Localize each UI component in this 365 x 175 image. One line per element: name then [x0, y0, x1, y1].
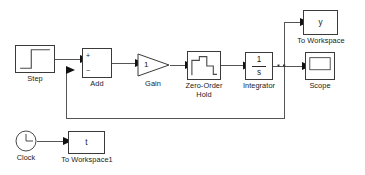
- block-to-workspace1[interactable]: t: [68, 131, 105, 154]
- block-clock[interactable]: [15, 130, 37, 152]
- block-scope[interactable]: [305, 52, 335, 80]
- block-step-label: Step: [5, 75, 65, 84]
- add-plus-sign: +: [86, 52, 90, 59]
- add-minus-sign: −: [86, 67, 90, 74]
- step-signal-icon: [16, 46, 54, 72]
- block-add[interactable]: + −: [82, 48, 112, 78]
- simulink-diagram-canvas: Step + − Add 1 Gain Zero-Order Hold 1 s …: [0, 0, 365, 175]
- block-zero-order-hold-label: Zero-Order Hold: [174, 82, 234, 99]
- block-gain[interactable]: 1: [137, 53, 170, 77]
- block-to-workspace1-label: To Workspace1: [56, 156, 118, 165]
- block-clock-label: Clock: [0, 154, 56, 163]
- block-integrator-label: Integrator: [229, 82, 289, 91]
- triangle-gain-icon: [137, 53, 170, 77]
- gain-value: 1: [144, 60, 148, 69]
- integrator-fraction-bar: [252, 66, 266, 67]
- block-integrator[interactable]: 1 s: [245, 52, 273, 80]
- clock-icon: [15, 130, 37, 152]
- block-step[interactable]: [15, 45, 55, 73]
- integrator-denominator: s: [246, 68, 272, 77]
- integrator-numerator: 1: [246, 55, 272, 64]
- scope-icon: [306, 53, 334, 79]
- to-workspace-variable: y: [304, 18, 337, 27]
- block-scope-label: Scope: [290, 82, 350, 91]
- block-add-label: Add: [67, 80, 127, 89]
- block-to-workspace-label: To Workspace: [291, 37, 351, 46]
- to-workspace1-variable: t: [69, 138, 104, 147]
- block-to-workspace[interactable]: y: [303, 10, 338, 35]
- block-zero-order-hold[interactable]: [187, 51, 221, 80]
- staircase-icon: [188, 52, 220, 79]
